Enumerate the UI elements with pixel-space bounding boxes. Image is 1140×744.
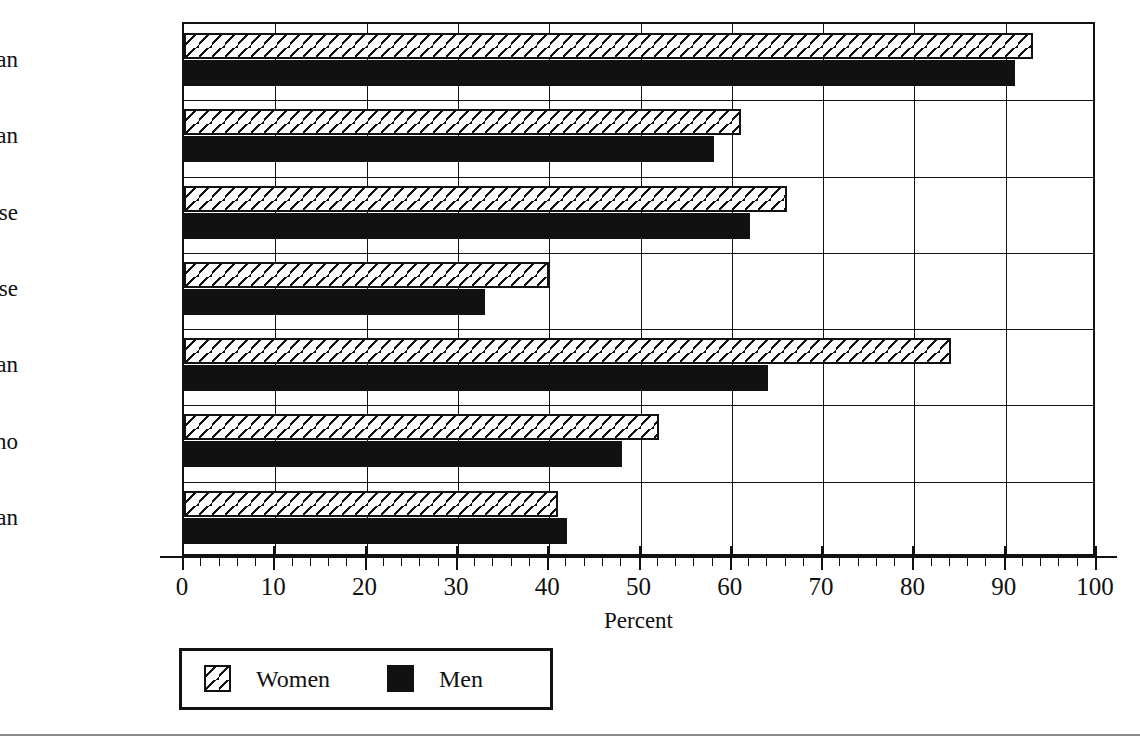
legend-entry-women: Women [204,665,330,692]
x-tick-minor [1077,557,1078,566]
x-tick-label: 20 [325,574,405,599]
x-tick-minor [693,557,694,566]
x-tick-label: 30 [416,574,496,599]
x-tick-minor [419,557,420,566]
legend-entry-men: Men [387,665,483,692]
bar-chinese-women [184,186,787,212]
bar-japanese-men [184,289,485,315]
category-band [184,329,1093,405]
x-tick-minor [383,557,384,566]
x-tick-minor [565,557,566,566]
bar-samoan-women [184,491,558,517]
x-tick-minor [657,557,658,566]
legend-label-men: Men [439,667,483,691]
bar-korean-women [184,338,951,364]
x-tick-minor [328,557,329,566]
x-tick-minor [949,557,950,566]
x-tick-minor [785,557,786,566]
x-tick-minor [620,557,621,566]
bar-part-hawaiian-women [184,109,741,135]
x-tick-minor [985,557,986,566]
bar-samoan-men [184,518,567,544]
x-tick-minor [310,557,311,566]
y-axis-label-korean: Korean [0,353,18,376]
x-axis: 0102030405060708090100 [182,556,1095,557]
x-tick-minor [894,557,895,566]
category-band [184,253,1093,329]
x-tick-minor [876,557,877,566]
x-tick-minor [529,557,530,566]
x-tick-label: 60 [690,574,770,599]
y-axis-label-part-hawaiian: Part-Hawaiian [0,124,18,147]
x-tick-minor [858,557,859,566]
x-tick-label: 50 [599,574,679,599]
x-tick-minor [511,557,512,566]
category-band [184,405,1093,481]
x-tick-major [912,546,914,570]
bar-japanese-women [184,262,549,288]
bar-part-hawaiian-men [184,136,714,162]
x-tick-label: 40 [507,574,587,599]
y-axis-label-samoan: Samoan [0,506,18,529]
x-tick-minor [219,557,220,566]
bar-korean-men [184,365,768,391]
x-tick-minor [839,557,840,566]
y-axis-label-filipino: Filipino [0,430,18,453]
x-tick-major [547,546,549,570]
x-tick-label: 70 [781,574,861,599]
legend-swatch-women [204,665,231,692]
x-tick-label: 90 [964,574,1044,599]
x-tick-major [821,546,823,570]
x-tick-minor [1058,557,1059,566]
x-tick-minor [1022,557,1023,566]
bar-hawaiian-women [184,33,1033,59]
bottom-divider-rule [0,734,1140,736]
category-band [184,24,1093,100]
x-tick-major [730,546,732,570]
y-axis-label-hawaiian: Hawaiian [0,48,18,71]
x-tick-minor [803,557,804,566]
x-tick-label: 10 [233,574,313,599]
x-tick-major [639,546,641,570]
bar-filipino-women [184,414,659,440]
plot-area [182,22,1095,556]
x-tick-minor [237,557,238,566]
x-tick-minor [766,557,767,566]
bar-filipino-men [184,441,622,467]
x-tick-minor [712,557,713,566]
x-tick-major [456,546,458,570]
x-tick-major [273,546,275,570]
x-tick-label: 0 [142,574,222,599]
category-band [184,177,1093,253]
x-tick-minor [200,557,201,566]
x-tick-major [182,546,184,570]
bar-chart-figure: 0102030405060708090100 Percent WomenMen … [0,0,1140,744]
x-tick-minor [492,557,493,566]
x-tick-minor [748,557,749,566]
x-tick-minor [967,557,968,566]
bar-chinese-men [184,213,750,239]
x-tick-minor [438,557,439,566]
x-tick-label: 100 [1055,574,1135,599]
x-tick-major [365,546,367,570]
x-tick-minor [584,557,585,566]
bar-hawaiian-men [184,60,1015,86]
y-axis-label-japanese: Japanese [0,277,18,300]
x-axis-title: Percent [182,608,1095,634]
legend-swatch-men [387,665,414,692]
x-tick-minor [1040,557,1041,566]
x-tick-minor [292,557,293,566]
legend-label-women: Women [256,667,330,691]
legend: WomenMen [179,648,553,710]
x-tick-label: 80 [872,574,952,599]
x-tick-minor [602,557,603,566]
x-tick-major [1004,546,1006,570]
category-band [184,100,1093,176]
x-tick-minor [401,557,402,566]
x-tick-minor [474,557,475,566]
x-tick-minor [675,557,676,566]
x-tick-minor [255,557,256,566]
y-axis-label-chinese: Chinese [0,201,18,224]
x-tick-minor [346,557,347,566]
x-tick-major [1095,546,1097,570]
